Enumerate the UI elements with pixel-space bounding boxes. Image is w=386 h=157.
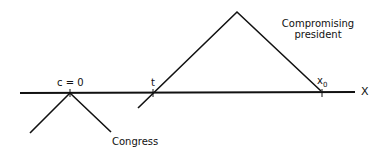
axis-label-x: X: [361, 86, 369, 97]
label-president: Compromising president: [278, 19, 358, 40]
label-t: t: [151, 78, 155, 88]
label-x0: x0: [317, 76, 327, 89]
congress-utility-curve: [30, 93, 111, 133]
label-x0-sub: 0: [323, 81, 327, 89]
label-c0: c = 0: [57, 78, 84, 88]
label-president-line1: Compromising: [278, 19, 358, 29]
label-president-line2: president: [278, 30, 358, 40]
label-congress: Congress: [112, 137, 158, 147]
